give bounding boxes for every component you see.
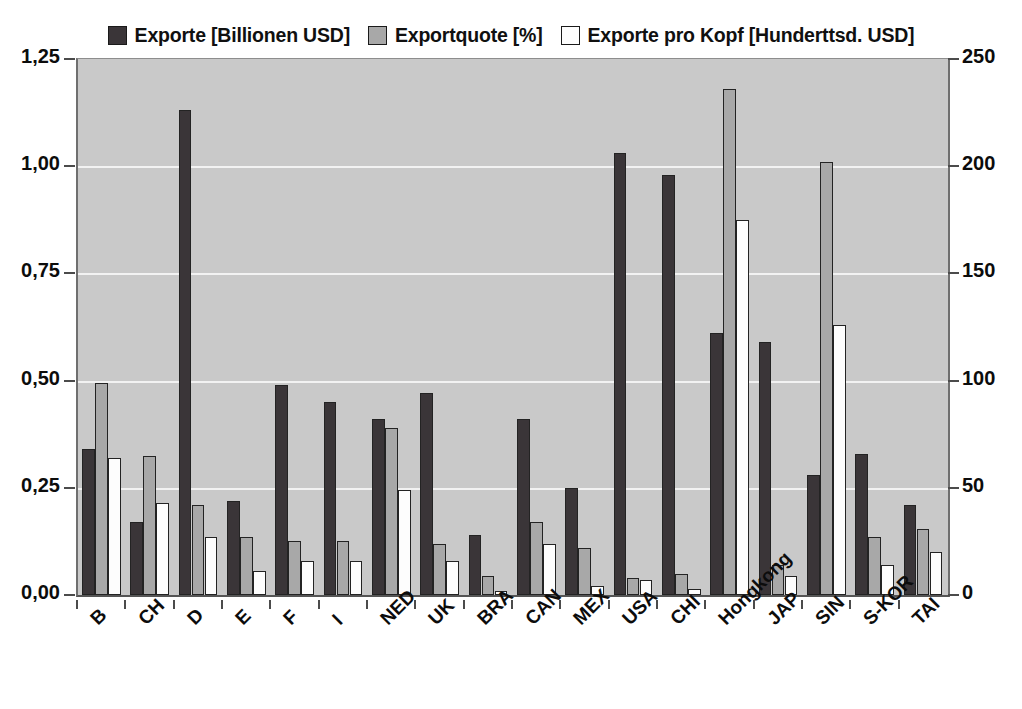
x-axis-label: UK [424, 595, 459, 630]
legend-label-exporte: Exporte [Billionen USD] [135, 24, 350, 47]
legend-entry-exportquote: Exportquote [%] [368, 24, 543, 47]
bar-group [755, 59, 803, 595]
bar [420, 393, 433, 595]
x-axis-tick [463, 600, 465, 609]
x-axis-labels: BCHDEFINEDUKBRACANMEXUSACHIHongkongJAPSI… [0, 600, 1022, 709]
bar [820, 162, 833, 595]
bar [565, 488, 578, 595]
chart-bars [78, 59, 948, 595]
bar [433, 544, 446, 595]
x-axis-tick [173, 600, 175, 609]
bar-group [610, 59, 658, 595]
bar [662, 175, 675, 595]
x-axis-label: E [231, 605, 256, 630]
y-axis-left-tick-label: 0,25 [21, 474, 60, 497]
y-axis-left-tick-label: 1,00 [21, 152, 60, 175]
x-axis-tick [656, 600, 658, 609]
bar-group [78, 59, 126, 595]
x-axis-tick [849, 600, 851, 609]
x-axis-label: F [279, 606, 303, 630]
y-axis-left-tick [64, 165, 75, 167]
bar [675, 574, 688, 595]
y-axis-left-tick-label: 1,25 [21, 45, 60, 68]
bar [469, 535, 482, 595]
x-axis-tick [704, 600, 706, 609]
bar-group [465, 59, 513, 595]
y-axis-left-tick-label: 0,75 [21, 259, 60, 282]
y-axis-right-tick [948, 272, 959, 274]
bar-group [368, 59, 416, 595]
bar [130, 522, 143, 595]
bar-group [513, 59, 561, 595]
y-axis-right-tick-label: 200 [962, 152, 995, 175]
bar [205, 537, 218, 595]
legend-entry-exporte-pro-kopf: Exporte pro Kopf [Hunderttsd. USD] [561, 24, 915, 47]
bar [723, 89, 736, 595]
bar [301, 561, 314, 595]
x-axis-label: SIN [811, 592, 849, 630]
bar [192, 505, 205, 595]
bar-group [658, 59, 706, 595]
bar [807, 475, 820, 595]
bar [179, 110, 192, 595]
bar [917, 529, 930, 595]
bar-group [175, 59, 223, 595]
bar-group [706, 59, 754, 595]
y-axis-right-tick [948, 165, 959, 167]
legend-swatch-white-icon [561, 26, 580, 45]
y-axis-left-tick-label: 0,50 [21, 367, 60, 390]
x-axis-tick [221, 600, 223, 609]
x-axis-tick [269, 600, 271, 609]
bar [446, 561, 459, 595]
x-axis-label: CH [134, 595, 169, 630]
x-axis-label: I [328, 610, 347, 629]
x-axis-tick [559, 600, 561, 609]
legend-label-exporte-pro-kopf: Exporte pro Kopf [Hunderttsd. USD] [588, 24, 915, 47]
bar [614, 153, 627, 595]
y-axis-left-tick [64, 487, 75, 489]
bar [324, 402, 337, 595]
x-axis-label: B [86, 604, 111, 629]
legend-entry-exporte: Exporte [Billionen USD] [108, 24, 350, 47]
bar [482, 576, 495, 595]
bar [288, 541, 301, 595]
chart-legend: Exporte [Billionen USD] Exportquote [%] … [0, 18, 1022, 52]
bar-group [320, 59, 368, 595]
y-axis-left-tick [64, 594, 75, 596]
bar [833, 325, 846, 595]
x-axis-label: D [183, 604, 208, 629]
y-axis-right-tick [948, 487, 959, 489]
y-axis-right-tick-label: 150 [962, 259, 995, 282]
y-axis-right-tick-label: 100 [962, 367, 995, 390]
legend-swatch-gray-icon [368, 26, 387, 45]
y-axis-left-tick [64, 58, 75, 60]
bar [385, 428, 398, 595]
bar [95, 383, 108, 595]
bar [517, 419, 530, 595]
y-axis-right-tick-label: 50 [962, 474, 984, 497]
y-axis-left-tick [64, 380, 75, 382]
bar-group [126, 59, 174, 595]
chart-plot-area [76, 58, 950, 597]
bar-group [900, 59, 948, 595]
bar [627, 578, 640, 595]
y-axis-right-tick [948, 594, 959, 596]
bar-group [803, 59, 851, 595]
bar [372, 419, 385, 595]
bar [398, 490, 411, 595]
bar [253, 571, 266, 595]
bar [350, 561, 363, 595]
legend-swatch-dark-icon [108, 26, 127, 45]
x-axis-tick [608, 600, 610, 609]
bar-group [271, 59, 319, 595]
bar [108, 458, 121, 595]
y-axis-right-tick-label: 250 [962, 45, 995, 68]
bar [868, 537, 881, 595]
bar [530, 522, 543, 595]
y-axis-right-tick [948, 58, 959, 60]
legend-label-exportquote: Exportquote [%] [395, 24, 543, 47]
y-axis-left-tick [64, 272, 75, 274]
bar [337, 541, 350, 595]
x-axis-tick [511, 600, 513, 609]
x-axis-tick [124, 600, 126, 609]
